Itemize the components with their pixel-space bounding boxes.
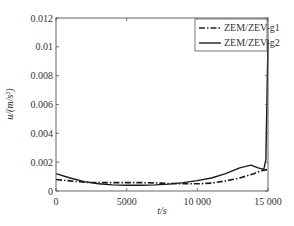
y-tick-label: 0 [48,186,53,197]
series-layer [56,40,268,186]
y-tick-label: 0.004 [31,128,54,139]
y-tick-label: 0.006 [31,99,54,110]
legend: ZEM/ZEV-g1 ZEM/ZEV-g2 [195,19,280,51]
line-chart: 0500010 00015 00000.0020.0040.0060.0080.… [0,0,294,226]
legend-label-g2: ZEM/ZEV-g2 [224,37,280,48]
legend-label-g1: ZEM/ZEV-g1 [224,22,280,33]
series-line-2 [56,40,268,186]
y-tick-label: 0.01 [36,41,54,52]
y-tick-label: 0.012 [31,13,54,24]
x-tick-label: 15 000 [254,196,282,207]
x-axis-label: t/s [157,205,167,216]
x-tick-label: 0 [54,196,59,207]
x-tick-label: 10 000 [184,196,212,207]
y-tick-label: 0.002 [31,157,54,168]
y-axis-label: u/(m/s²) [4,88,16,120]
y-tick-label: 0.008 [31,70,54,81]
x-tick-label: 5000 [117,196,137,207]
